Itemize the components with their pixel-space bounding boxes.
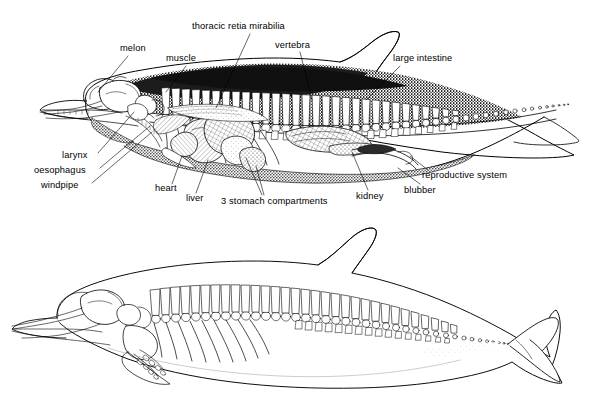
label-heart: heart <box>155 184 177 193</box>
label-muscle: muscle <box>166 54 196 63</box>
anatomy-figure-page: melon muscle thoracic retia mirabilia ve… <box>0 0 599 402</box>
label-reproductive-system: reproductive system <box>422 171 507 180</box>
label-thoracic-retia-mirabilia: thoracic retia mirabilia <box>192 22 285 31</box>
label-melon: melon <box>120 44 146 53</box>
label-large-intestine: large intestine <box>393 54 452 63</box>
label-oesophagus: oesophagus <box>34 166 86 175</box>
upper-melon-inner <box>90 86 99 99</box>
upper-dorsal-fin <box>340 31 399 72</box>
label-vertebra: vertebra <box>275 41 310 50</box>
label-larynx: larynx <box>62 151 87 160</box>
upper-anatomy-figure <box>40 31 579 183</box>
leader-kidney <box>352 152 368 190</box>
lower-skeleton-figure <box>12 228 562 388</box>
upper-blowhole <box>114 77 126 79</box>
upper-reproductive-system <box>352 145 418 169</box>
label-blubber: blubber <box>404 186 436 195</box>
label-liver: liver <box>186 194 204 203</box>
label-windpipe: windpipe <box>41 181 79 190</box>
label-kidney: kidney <box>356 192 383 201</box>
label-3-stomach-compartments: 3 stomach compartments <box>221 197 328 206</box>
leader-reproductive <box>410 156 428 170</box>
